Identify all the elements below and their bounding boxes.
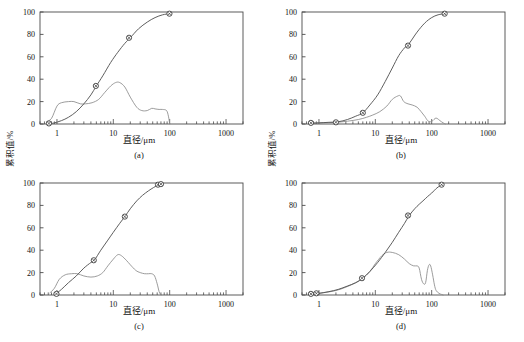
svg-text:40: 40 [289,75,297,84]
svg-text:100: 100 [23,179,35,188]
x-axis-label-d: 直径/μm [262,304,524,317]
svg-text:20: 20 [27,269,35,278]
svg-text:40: 40 [27,75,35,84]
svg-text:100: 100 [285,179,297,188]
y-axis-label-d: 累积值/% [265,103,279,195]
y-axis-label-c: 累积值/% [3,103,17,195]
svg-text:60: 60 [27,53,35,62]
svg-text:60: 60 [289,53,297,62]
svg-text:20: 20 [27,98,35,107]
svg-text:0: 0 [293,291,297,300]
y-axis-label-b: 累积值/% [265,0,279,24]
svg-text:40: 40 [27,246,35,255]
chart-panel-b: 0204060801001101001000 累积值/% 直径/μm (b) [262,0,524,171]
panel-caption-c: (c) [0,321,262,331]
svg-text:100: 100 [285,8,297,17]
chart-panel-d: 0204060801001101001000 累积值/% 直径/μm (d) [262,171,524,342]
y-axis-label-wrap-b: 累积值/% [262,0,282,120]
y-axis-label-wrap-c: 累积值/% [0,171,20,291]
panel-caption-a: (a) [0,150,262,160]
x-axis-label-b: 直径/μm [262,133,524,146]
chart-panel-a: 0204060801001101001000 累积值/% 直径/μm (a) [0,0,262,171]
svg-text:60: 60 [289,224,297,233]
y-axis-label-a: 累积值/% [3,0,17,24]
panel-caption-d: (d) [262,321,524,331]
svg-text:80: 80 [289,30,297,39]
figure-container: 0204060801001101001000 累积值/% 直径/μm (a) 0… [0,0,524,342]
svg-text:0: 0 [31,120,35,129]
svg-text:20: 20 [289,269,297,278]
x-axis-label-c: 直径/μm [0,304,262,317]
svg-text:60: 60 [27,224,35,233]
svg-text:0: 0 [293,120,297,129]
y-axis-label-wrap-d: 累积值/% [262,171,282,291]
svg-text:100: 100 [23,8,35,17]
svg-text:0: 0 [31,291,35,300]
svg-text:80: 80 [289,201,297,210]
chart-panel-c: 0204060801001101001000 累积值/% 直径/μm (c) [0,171,262,342]
panel-caption-b: (b) [262,150,524,160]
svg-text:40: 40 [289,246,297,255]
svg-text:80: 80 [27,201,35,210]
svg-text:80: 80 [27,30,35,39]
y-axis-label-wrap-a: 累积值/% [0,0,20,120]
svg-text:20: 20 [289,98,297,107]
x-axis-label-a: 直径/μm [0,133,262,146]
